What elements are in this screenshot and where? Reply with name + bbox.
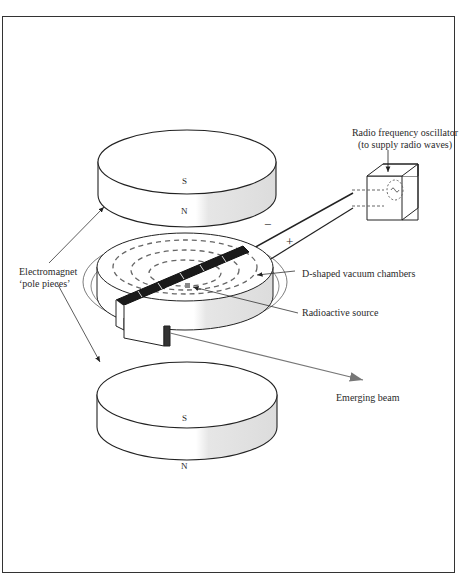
d-shaped-chambers [83,233,287,346]
dees-label: D-shaped vacuum chambers [302,268,415,280]
top-magnet-south-label: S [182,175,187,187]
bottom-magnet-south-label: S [182,412,187,424]
rf-oscillator-box [352,150,418,220]
bottom-magnet [97,362,277,460]
electromagnet-label-line1: Electromagnet [19,266,77,278]
top-magnet-north-label: N [181,205,188,217]
radioactive-source-marker [185,283,190,288]
plus-terminal-label: + [286,236,293,248]
electromagnet-leader-top [49,207,104,263]
electromagnet-leader-bottom [57,283,100,362]
source-label: Radioactive source [302,307,378,319]
oscillator-label-line2: (to supply radio waves) [350,139,460,151]
oscillator-label: Radio frequency oscillator (to supply ra… [350,127,460,151]
minus-terminal-label: − [264,219,271,231]
electromagnet-label: Electromagnet ‘pole pieces’ [19,266,77,290]
bottom-magnet-north-label: N [181,460,188,472]
oscillator-label-line1: Radio frequency oscillator [350,127,460,139]
electromagnet-label-line2: ‘pole pieces’ [19,278,77,290]
beam-label: Emerging beam [336,392,399,404]
